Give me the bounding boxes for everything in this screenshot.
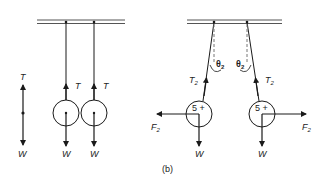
left-sphere-2: T W [81,21,110,159]
tension-arrow [256,78,259,96]
force-label: F2 [151,122,161,133]
pivot-dot [246,21,249,24]
diagram-canvas: T W T W T W [0,0,326,190]
weight-label: W [62,149,72,159]
weight-label: W [258,149,268,159]
right-sphere-2: 5 + T2 F2 W θ2 [236,21,312,159]
free-body-weight-label: W [18,149,28,159]
free-body-diagram: T W [18,72,28,159]
right-sphere-1: 5 + T2 F2 W θ2 [151,21,225,159]
force-label: F2 [302,122,312,133]
pivot-dot [93,21,96,24]
charge-label: 5 + [192,103,205,113]
angle-label: θ2 [236,59,245,70]
charge-label: 5 + [255,103,268,113]
angle-label: θ2 [216,59,225,70]
left-panel: T W T W T W [18,20,125,159]
left-support-bar [37,20,125,24]
tension-label: T [75,81,82,91]
tension-arrow [204,78,207,96]
point-mass-dot [21,111,24,114]
pivot-dot [213,21,216,24]
right-support-bar [187,20,282,24]
free-body-tension-label: T [20,72,27,82]
tension-label: T2 [265,75,275,86]
panel-label-b: (b) [162,164,173,174]
tension-label: T2 [189,75,199,86]
pivot-dot [65,21,68,24]
right-panel: 5 + T2 F2 W θ2 5 + T2 F2 W θ2 (b) [151,20,312,174]
weight-label: W [90,149,100,159]
tension-label: T [103,81,110,91]
weight-label: W [195,149,205,159]
left-sphere-1: T W [53,21,82,159]
